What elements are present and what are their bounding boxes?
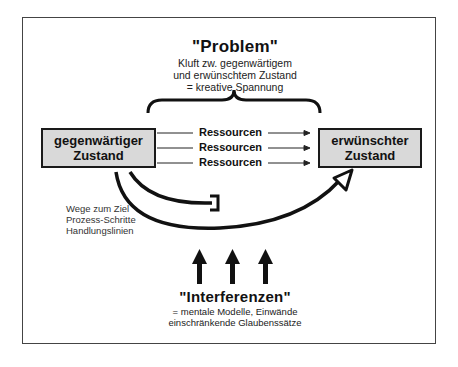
current-state-line: Zustand: [54, 148, 143, 163]
desired-state-line: erwünschter: [331, 133, 408, 148]
resource-label: Ressourcen: [193, 156, 268, 168]
desired-state-box: erwünschter Zustand: [318, 128, 422, 168]
current-state-line: gegenwärtiger: [54, 133, 143, 148]
interferences-line: = mentale Modelle, Einwände: [130, 306, 340, 317]
problem-line: und erwünschtem Zustand: [140, 69, 330, 81]
paths-note-line: Handlungslinien: [66, 225, 166, 236]
problem-title: "Problem": [150, 37, 320, 57]
problem-description: Kluft zw. gegenwärtigem und erwünschtem …: [140, 57, 330, 93]
curly-brace-icon: [148, 90, 320, 113]
current-state-box: gegenwärtiger Zustand: [41, 128, 156, 168]
desired-state-line: Zustand: [331, 148, 408, 163]
open-arrowhead-icon: [334, 170, 352, 190]
blocked-path-curve: [130, 172, 212, 203]
resource-label: Ressourcen: [193, 141, 268, 153]
interferences-line: einschränkende Glaubenssätze: [130, 317, 340, 328]
interferences-description: = mentale Modelle, Einwände einschränken…: [130, 306, 340, 328]
interferences-title: "Interferenzen": [140, 288, 330, 305]
paths-note-line: Wege zum Ziel: [66, 203, 166, 214]
interference-arrows: [192, 249, 273, 284]
paths-note-line: Prozess-Schritte: [66, 214, 166, 225]
problem-line: = kreative Spannung: [140, 81, 330, 93]
problem-line: Kluft zw. gegenwärtigem: [140, 57, 330, 69]
resource-label: Ressourcen: [193, 126, 268, 138]
paths-note: Wege zum Ziel Prozess-Schritte Handlungs…: [66, 203, 166, 236]
